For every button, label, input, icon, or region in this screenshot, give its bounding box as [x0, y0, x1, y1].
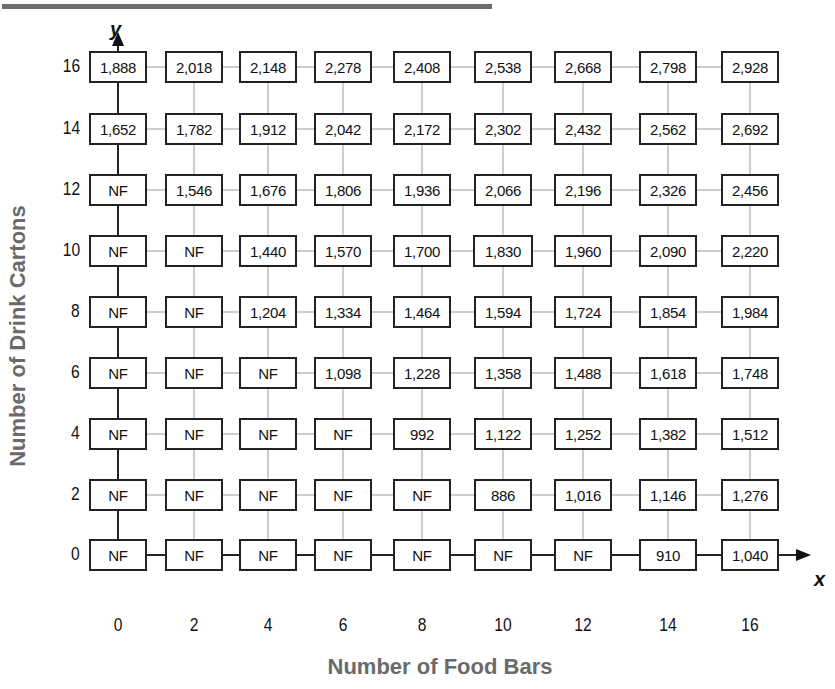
- cell-not-feasible: NF: [89, 479, 147, 511]
- cell-value: 2,798: [639, 51, 697, 83]
- y-tick-label: 12: [63, 178, 80, 200]
- cell-value: 2,538: [474, 51, 532, 83]
- cell-value: 1,854: [639, 296, 697, 328]
- cell-value: 2,456: [721, 174, 779, 206]
- cell-value: 1,618: [639, 357, 697, 389]
- cell-value: 1,806: [314, 174, 372, 206]
- cell-not-feasible: NF: [239, 357, 297, 389]
- cell-value: 1,912: [239, 113, 297, 145]
- cell-not-feasible: NF: [165, 479, 223, 511]
- x-axis-arrow-icon: [796, 549, 811, 561]
- cell-value: 2,408: [393, 51, 451, 83]
- cell-not-feasible: NF: [89, 357, 147, 389]
- cell-not-feasible: NF: [314, 418, 372, 450]
- cell-not-feasible: NF: [165, 418, 223, 450]
- y-axis-title: Number of Drink Cartons: [5, 176, 31, 496]
- x-tick-label: 12: [567, 614, 600, 636]
- cell-value: 2,326: [639, 174, 697, 206]
- cell-not-feasible: NF: [89, 418, 147, 450]
- cell-value: 1,382: [639, 418, 697, 450]
- cell-value: 1,676: [239, 174, 297, 206]
- x-tick-label: 8: [406, 614, 439, 636]
- cell-value: 1,782: [165, 113, 223, 145]
- feasibility-grid-chart: 1,8882,0182,1482,2782,4082,5382,6682,798…: [0, 0, 835, 689]
- y-tick-label: 6: [71, 361, 80, 383]
- cell-value: 1,888: [89, 51, 147, 83]
- cell-not-feasible: NF: [165, 539, 223, 571]
- cell-value: 1,016: [554, 479, 612, 511]
- cell-value: 1,276: [721, 479, 779, 511]
- cell-value: 1,594: [474, 296, 532, 328]
- cell-value: 886: [474, 479, 532, 511]
- cell-not-feasible: NF: [165, 357, 223, 389]
- y-tick-label: 8: [71, 300, 80, 322]
- x-tick-label: 0: [102, 614, 135, 636]
- cell-value: 1,546: [165, 174, 223, 206]
- cell-value: 2,066: [474, 174, 532, 206]
- x-axis-letter: x: [814, 568, 825, 591]
- y-tick-label: 14: [63, 117, 80, 139]
- cell-value: 1,228: [393, 357, 451, 389]
- cell-not-feasible: NF: [239, 539, 297, 571]
- y-tick-label: 2: [71, 483, 80, 505]
- cell-value: 2,278: [314, 51, 372, 83]
- cell-value: 1,652: [89, 113, 147, 145]
- cell-not-feasible: NF: [393, 539, 451, 571]
- grid-lines: [0, 0, 835, 689]
- cell-value: 1,204: [239, 296, 297, 328]
- cell-value: 1,122: [474, 418, 532, 450]
- cell-value: 1,146: [639, 479, 697, 511]
- cell-not-feasible: NF: [239, 418, 297, 450]
- y-tick-label: 0: [71, 543, 80, 565]
- cell-value: 2,432: [554, 113, 612, 145]
- cell-value: 2,018: [165, 51, 223, 83]
- cell-not-feasible: NF: [89, 174, 147, 206]
- cell-value: 1,488: [554, 357, 612, 389]
- cell-value: 1,700: [393, 235, 451, 267]
- cell-not-feasible: NF: [89, 296, 147, 328]
- cell-not-feasible: NF: [239, 479, 297, 511]
- cell-value: 2,172: [393, 113, 451, 145]
- cell-value: 1,334: [314, 296, 372, 328]
- cell-not-feasible: NF: [165, 296, 223, 328]
- y-tick-label: 4: [71, 422, 80, 444]
- cell-value: 1,984: [721, 296, 779, 328]
- cell-value: 1,464: [393, 296, 451, 328]
- y-tick-label: 10: [63, 239, 80, 261]
- cell-value: 1,358: [474, 357, 532, 389]
- cell-value: 2,042: [314, 113, 372, 145]
- cell-not-feasible: NF: [554, 539, 612, 571]
- cell-value: 1,936: [393, 174, 451, 206]
- cell-not-feasible: NF: [393, 479, 451, 511]
- cell-value: 2,668: [554, 51, 612, 83]
- cell-value: 2,562: [639, 113, 697, 145]
- cell-value: 2,196: [554, 174, 612, 206]
- cell-value: 1,830: [473, 235, 533, 267]
- cell-value: 2,220: [721, 235, 779, 267]
- cell-not-feasible: NF: [474, 539, 532, 571]
- cell-value: 2,090: [639, 235, 697, 267]
- cell-value: 1,570: [314, 235, 372, 267]
- cell-value: 2,302: [474, 113, 532, 145]
- cell-value: 1,960: [554, 235, 612, 267]
- cell-not-feasible: NF: [314, 479, 372, 511]
- cell-not-feasible: NF: [89, 539, 147, 571]
- x-tick-label: 6: [327, 614, 360, 636]
- cell-not-feasible: NF: [89, 235, 147, 267]
- cell-value: 910: [639, 539, 697, 571]
- cell-value: 2,692: [721, 113, 779, 145]
- cell-value: 1,748: [721, 357, 779, 389]
- cell-value: 2,148: [239, 51, 297, 83]
- cell-value: 1,724: [554, 296, 612, 328]
- x-tick-label: 14: [652, 614, 685, 636]
- x-tick-label: 4: [252, 614, 285, 636]
- x-tick-label: 16: [734, 614, 767, 636]
- cell-value: 1,098: [314, 357, 372, 389]
- x-tick-label: 2: [178, 614, 211, 636]
- x-axis-title: Number of Food Bars: [0, 654, 835, 680]
- cell-value: 1,512: [721, 418, 779, 450]
- cell-value: 992: [393, 418, 451, 450]
- cell-value: 1,040: [721, 539, 779, 571]
- cell-value: 1,440: [239, 235, 297, 267]
- cell-not-feasible: NF: [314, 539, 372, 571]
